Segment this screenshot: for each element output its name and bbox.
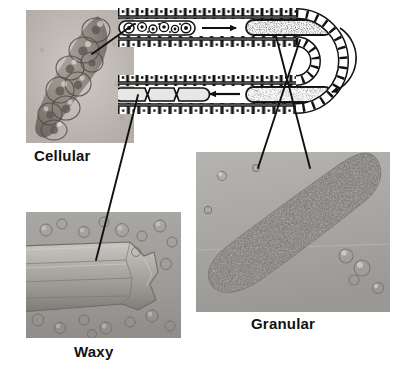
granular-cast-image — [196, 152, 390, 312]
cast-cellular-in-lumen — [119, 21, 195, 35]
photo-waxy-cast — [26, 212, 181, 338]
waxy-cast-image — [26, 212, 181, 338]
caption-granular: Granular — [251, 315, 315, 332]
renal-tubule-diagram — [118, 6, 412, 128]
photo-granular-cast — [196, 152, 390, 312]
figure-canvas: Cellular — [0, 0, 412, 367]
cast-waxy-in-lumen — [118, 88, 210, 101]
caption-waxy: Waxy — [74, 343, 113, 360]
caption-cellular: Cellular — [34, 147, 91, 164]
tubule-loop-svg — [118, 6, 412, 128]
